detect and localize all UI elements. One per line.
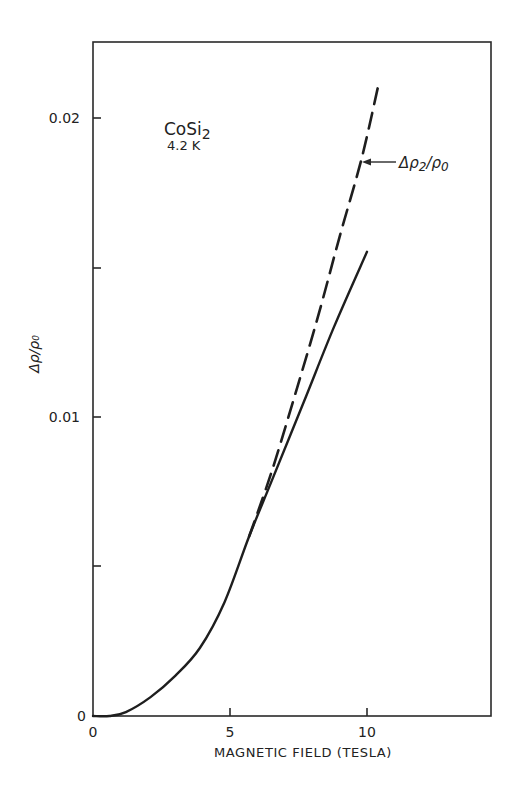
chart: 0.02 0.01 0 0 5 10 MAGNETIC FIELD (TESLA…	[0, 0, 517, 794]
dashed-series-label: Δρ2/ρ0	[398, 154, 449, 174]
sample-name: CoSi	[164, 119, 202, 139]
y-axis-ticks	[93, 118, 101, 566]
y-tick-label-0.02: 0.02	[49, 110, 80, 126]
solid-series-line	[93, 252, 367, 717]
dashed-series-line	[249, 87, 378, 536]
sample-subscript: 2	[202, 126, 211, 142]
temperature-label: 4.2 K	[167, 138, 201, 153]
y-tick-label-0: 0	[77, 708, 86, 724]
y-tick-label-0.01: 0.01	[49, 409, 80, 425]
x-axis-label: MAGNETIC FIELD (TESLA)	[214, 745, 392, 760]
arrow-head-icon	[362, 159, 371, 166]
y-axis-label: Δρ/ρ₀	[26, 335, 42, 374]
x-axis-ticks	[230, 708, 367, 716]
dashed-series-annotation: Δρ2/ρ0	[362, 154, 449, 174]
plot-frame	[93, 42, 491, 716]
x-tick-label-10: 10	[358, 724, 376, 740]
x-tick-label-0: 0	[89, 724, 98, 740]
x-tick-label-5: 5	[226, 724, 235, 740]
